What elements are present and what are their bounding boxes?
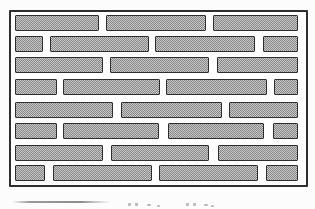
brick-row5-1 — [15, 102, 113, 118]
brick-row2-1 — [15, 36, 43, 52]
brick-row2-2 — [50, 36, 149, 52]
brick-row1-2 — [106, 15, 206, 31]
caption-text-fragment — [211, 205, 214, 207]
caption-rule — [12, 201, 110, 203]
caption-text-fragment — [193, 203, 196, 206]
caption-text-fragment — [157, 205, 160, 207]
brick-row3-1 — [15, 57, 103, 73]
brick-row8-3 — [159, 165, 258, 181]
brick-row4-3 — [166, 79, 267, 95]
brick-row3-2 — [110, 57, 209, 73]
brick-row2-4 — [263, 36, 298, 52]
brick-row8-1 — [15, 165, 45, 181]
caption-text-fragment — [204, 204, 208, 206]
caption-text-fragment — [147, 204, 151, 206]
caption-text-fragment — [128, 203, 131, 206]
brick-row8-4 — [266, 165, 298, 181]
brick-row4-2 — [63, 79, 160, 95]
brick-row3-3 — [217, 57, 298, 73]
brick-row4-4 — [274, 79, 298, 95]
brick-wall — [9, 10, 308, 187]
brick-row1-1 — [15, 15, 99, 31]
brick-row6-1 — [15, 123, 57, 139]
brick-row6-3 — [168, 123, 264, 139]
caption-text-fragment — [135, 203, 138, 206]
brick-row4-1 — [15, 79, 57, 95]
brick-row1-3 — [213, 15, 298, 31]
brick-row5-3 — [229, 102, 298, 118]
brick-row6-4 — [273, 123, 298, 139]
brick-row5-2 — [121, 102, 222, 118]
caption-text-fragment — [186, 203, 189, 206]
brick-row6-2 — [63, 123, 159, 139]
brick-row7-2 — [111, 145, 209, 161]
figure-page — [0, 0, 315, 209]
brick-row7-1 — [15, 145, 103, 161]
brick-row8-2 — [53, 165, 152, 181]
brick-row7-3 — [218, 145, 298, 161]
brick-row2-3 — [155, 36, 255, 52]
